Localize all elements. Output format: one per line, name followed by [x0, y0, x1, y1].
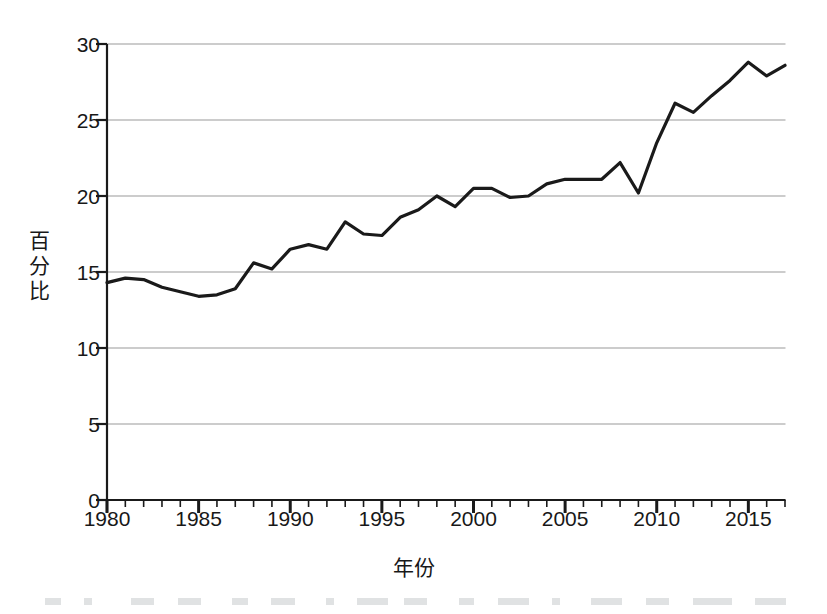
x-axis-tick-labels: 19801985199019952000200520102015 [0, 508, 827, 538]
y-axis-tick-label: 5 [60, 414, 100, 435]
y-axis-tick-label: 15 [60, 262, 100, 283]
x-axis-tick-label: 1995 [342, 508, 422, 529]
x-axis-tick-label: 1980 [67, 508, 147, 529]
x-axis-tick-label: 2000 [433, 508, 513, 529]
gridlines [107, 44, 786, 500]
x-axis-tick-label: 1990 [250, 508, 330, 529]
x-axis-tick-label: 1985 [159, 508, 239, 529]
x-axis-tick-label: 2005 [525, 508, 605, 529]
x-axis-title: 年份 [0, 551, 827, 581]
y-axis-tick-label: 20 [60, 186, 100, 207]
data-series-line [107, 62, 785, 296]
y-axis-title: 百 分 比 [22, 228, 56, 303]
y-axis-tick-label: 10 [60, 338, 100, 359]
line-chart-figure: 051015202530 198019851990199520002005201… [0, 0, 827, 614]
x-axis-tick-label: 2010 [617, 508, 697, 529]
y-axis-tick-label: 25 [60, 110, 100, 131]
y-axis-tick-label: 30 [60, 34, 100, 55]
scan-artifact-smudge [14, 598, 794, 605]
x-axis-tick-label: 2015 [708, 508, 788, 529]
